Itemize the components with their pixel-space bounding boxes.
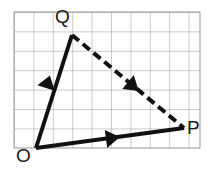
vertex-label-o: O (16, 146, 31, 165)
diagram-canvas (0, 0, 213, 181)
vector-diagram-figure: O P Q (0, 0, 213, 181)
vertex-label-p: P (187, 118, 200, 137)
vertex-label-q: Q (55, 7, 70, 26)
